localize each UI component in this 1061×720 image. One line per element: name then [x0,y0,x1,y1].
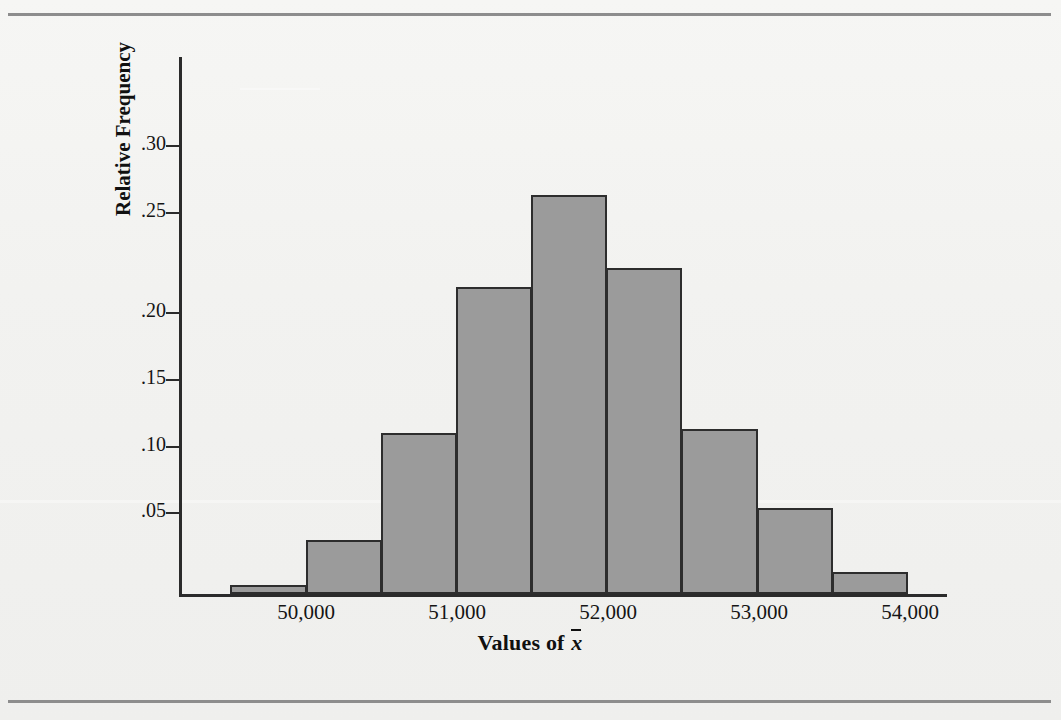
y-tick-mark [166,145,180,147]
y-tick-label: .15 [120,367,166,387]
x-tick-label: 52,000 [548,600,668,625]
y-tick-label: .20 [120,300,166,320]
x-tick-label: 50,000 [246,600,366,625]
histogram-bar [531,195,607,594]
y-tick-mark [166,446,180,448]
y-axis-title: Relative Frequency [111,0,136,216]
x-axis-title-prefix: Values of [477,630,570,655]
histogram-bar [381,433,457,594]
figure-page: .05 .10 .15 .20 .25 .30 [0,0,1061,720]
histogram-bar [230,585,307,594]
x-axis-title: Values of x [0,630,1061,656]
histogram-bar [681,429,758,594]
histogram-bar [456,287,532,594]
x-tick-label: 53,000 [699,600,819,625]
histogram-bar [306,540,382,594]
x-tick-label: 54,000 [850,600,970,625]
x-axis-line [179,594,947,597]
y-tick-mark [166,212,180,214]
y-tick-label: .05 [120,500,166,520]
x-bar-symbol: x [570,630,583,656]
y-axis-line [179,57,182,597]
histogram-bar [606,268,682,594]
x-tick-label: 51,000 [397,600,517,625]
histogram-bar [757,508,833,594]
y-tick-mark [166,312,180,314]
histogram-plot: .05 .10 .15 .20 .25 .30 [0,0,1061,720]
y-tick-mark [166,379,180,381]
histogram-bar [832,572,908,594]
y-tick-mark [166,512,180,514]
y-tick-label: .10 [120,434,166,454]
